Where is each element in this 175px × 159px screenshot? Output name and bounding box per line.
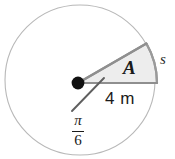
angle-denominator: 6 bbox=[63, 133, 93, 149]
arc-length-label: s bbox=[160, 52, 166, 67]
central-angle-label: π 6 bbox=[63, 113, 93, 149]
sector-area-label: A bbox=[123, 58, 136, 77]
radius-length-label: 4 m bbox=[105, 90, 135, 107]
figure-root: A s 4 m π 6 bbox=[0, 0, 175, 159]
angle-numerator: π bbox=[63, 113, 93, 130]
center-point-dot bbox=[72, 77, 85, 90]
